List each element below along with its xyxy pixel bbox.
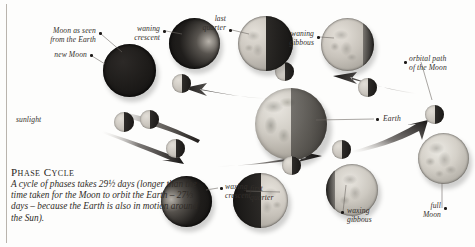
callout-dot-orbital-path <box>404 61 407 64</box>
label-earth: Earth <box>383 114 428 123</box>
callout-dot-last-quarter <box>229 29 232 32</box>
callout-dot-waxing-gibbous <box>341 211 344 214</box>
callout-dot-waxing-crescent <box>220 187 223 190</box>
label-moon-as-seen-from-earth: Moon as seen from the Earth <box>16 26 96 44</box>
phase-cycle-body: A cycle of phases takes 29½ days (longer… <box>11 179 203 224</box>
phase-cycle-title: Phase Cycle <box>11 166 203 178</box>
callout-dot-waning-gibbous <box>317 36 320 39</box>
callout-dot-earth <box>376 118 379 121</box>
callout-dot-waning-crescent <box>163 30 166 33</box>
label-sunlight: sunlight <box>16 115 76 124</box>
label-orbital-path-of-the-moon: orbital path of the Moon <box>409 54 475 72</box>
label-new-moon: new Moon <box>26 50 87 59</box>
label-first-quarter: first quarter <box>250 184 302 202</box>
label-waxing-gibbous: waxing gibbous <box>347 206 401 224</box>
label-full-moon: full Moon <box>398 201 441 219</box>
phase-cycle-panel: Phase Cycle A cycle of phases takes 29½ … <box>11 166 203 224</box>
label-waning-crescent: waning crescent <box>100 24 160 42</box>
label-waning-gibbous: waning gibbous <box>255 29 314 47</box>
callout-dot-new-moon <box>90 54 93 57</box>
callout-dot-full-moon <box>444 207 447 210</box>
label-last-quarter: last quarter <box>176 14 226 32</box>
